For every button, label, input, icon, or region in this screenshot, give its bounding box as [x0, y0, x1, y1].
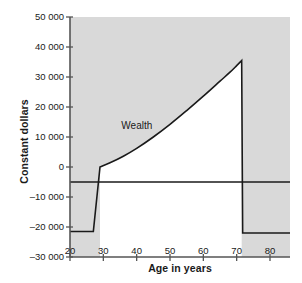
y-tick-label: 20 000	[4, 101, 64, 112]
y-tick-label: 50 000	[4, 11, 64, 22]
y-axis-tick-labels: 50 00040 00030 00020 00010 0000–10 000–2…	[0, 0, 64, 283]
x-axis-tick-labels: 20304050607080	[0, 245, 302, 261]
y-tick-label: –20 000	[4, 221, 64, 232]
x-tick-label: 70	[222, 245, 252, 256]
x-tick-label: 20	[55, 245, 85, 256]
y-tick-label: 30 000	[4, 71, 64, 82]
x-tick-label: 50	[155, 245, 185, 256]
x-tick-label: 40	[122, 245, 152, 256]
y-tick-label: 0	[4, 161, 64, 172]
y-tick-label: 40 000	[4, 41, 64, 52]
y-tick-label: –10 000	[4, 191, 64, 202]
x-tick-label: 60	[188, 245, 218, 256]
wealth-over-lifetime-chart: Constant dollars 50 00040 00030 00020 00…	[0, 0, 302, 283]
x-tick-label: 30	[88, 245, 118, 256]
x-axis-title: Age in years	[70, 262, 290, 274]
y-tick-label: 10 000	[4, 131, 64, 142]
x-tick-label: 80	[255, 245, 285, 256]
wealth-series-label: Wealth	[121, 120, 152, 131]
